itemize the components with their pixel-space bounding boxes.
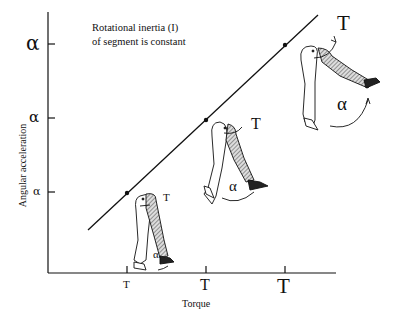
x-tick-small: T (123, 278, 130, 290)
figure-large-accel-label: α (337, 93, 347, 115)
figure-medium-accel-label: α (229, 178, 237, 195)
data-point-medium (204, 118, 208, 122)
leg-figure-large (301, 36, 380, 130)
x-axis-label: Torque (182, 298, 210, 309)
note-line-1: Rotational inertia (I) (92, 21, 186, 35)
figure-large-torque-label: T (337, 11, 350, 36)
figure-medium-torque-label: T (251, 115, 261, 133)
y-axis-label: Angular acceleration (17, 111, 28, 221)
y-tick-medium: α (29, 108, 39, 126)
note-line-2: of segment is constant (92, 35, 186, 49)
y-tick-small: α (33, 185, 40, 198)
figure-small-accel-label: α (153, 248, 159, 260)
x-tick-medium: T (200, 276, 210, 294)
axes (48, 12, 336, 273)
x-tick-large: T (277, 274, 290, 299)
data-point-small (125, 191, 129, 195)
diagram-canvas (0, 0, 398, 320)
figure-small-torque-label: T (163, 191, 170, 203)
data-point-large (283, 43, 287, 47)
y-tick-large: α (26, 31, 40, 55)
constant-inertia-note: Rotational inertia (I) of segment is con… (92, 21, 186, 49)
